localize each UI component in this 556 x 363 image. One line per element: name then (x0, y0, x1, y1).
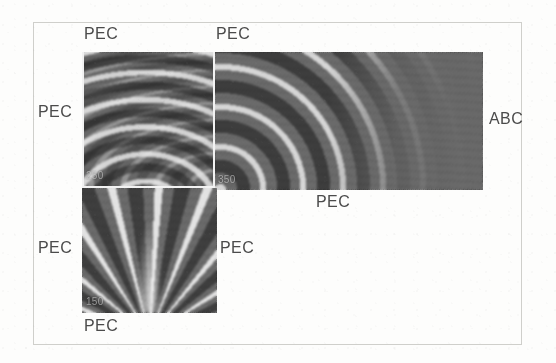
figure-frame-left (33, 22, 34, 345)
label-pec-upper-left-side: PEC (38, 104, 72, 120)
label-pec-lower-left-side: PEC (38, 240, 72, 256)
label-pec-lower-block-bottom: PEC (84, 318, 118, 334)
label-abc-right-side: ABC (489, 111, 523, 127)
figure-frame-right (521, 22, 522, 345)
upper-right-field-region: 350 (215, 52, 483, 190)
upper-left-wavefront-pattern (82, 52, 215, 187)
lower-field-region: 150 (82, 188, 217, 313)
label-pec-below-upper-right: PEC (316, 194, 350, 210)
upper-left-field-region: 250 (82, 52, 215, 187)
figure-frame-top (33, 22, 522, 23)
upper-right-field-fade (215, 52, 483, 190)
upper-left-field-annotation: 250 (86, 171, 104, 181)
figure-frame-bottom (33, 344, 522, 345)
lower-field-beam-column (139, 223, 161, 313)
simulation-domain-figure: 250 350 150 PEC PEC PEC ABC PEC PEC PEC … (0, 0, 556, 363)
label-pec-lower-block-right: PEC (220, 240, 254, 256)
label-pec-upper-right-top: PEC (216, 26, 250, 42)
lower-field-annotation: 150 (86, 297, 104, 307)
label-pec-upper-left-top: PEC (84, 26, 118, 42)
upper-right-field-annotation: 350 (218, 175, 236, 185)
